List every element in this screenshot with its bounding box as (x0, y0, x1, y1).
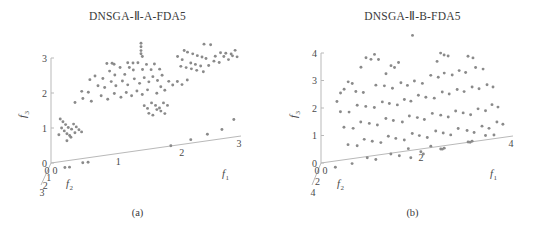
svg-text:f2: f2 (66, 177, 74, 192)
panel-a-plot: 321012300123f1f2f3 (0, 0, 275, 228)
panel-a-caption: (a) (0, 207, 275, 218)
svg-text:3: 3 (312, 75, 317, 86)
svg-text:f3: f3 (16, 110, 31, 118)
svg-text:3: 3 (42, 53, 47, 64)
svg-text:0: 0 (53, 165, 58, 176)
svg-text:f2: f2 (337, 177, 345, 192)
svg-text:0: 0 (312, 158, 317, 169)
svg-text:f1: f1 (490, 167, 498, 182)
panel-a: DNSGA-Ⅱ-A-FDA5 321012300123f1f2f3 (a) (0, 0, 275, 228)
svg-text:1: 1 (42, 123, 47, 134)
svg-text:f1: f1 (222, 167, 230, 182)
svg-text:3: 3 (237, 138, 242, 149)
panel-b-plot: 42024001234f1f2f3 (275, 0, 550, 228)
panel-b: DNSGA-Ⅱ-B-FDA5 42024001234f1f2f3 (b) (275, 0, 550, 228)
svg-text:3: 3 (40, 187, 45, 198)
svg-text:f3: f3 (287, 110, 302, 118)
svg-text:0: 0 (323, 165, 328, 176)
svg-text:2: 2 (312, 103, 317, 114)
svg-text:1: 1 (312, 130, 317, 141)
svg-text:4: 4 (509, 138, 514, 149)
svg-text:2: 2 (179, 147, 184, 158)
svg-text:0: 0 (42, 158, 47, 169)
svg-text:4: 4 (312, 48, 317, 59)
svg-text:2: 2 (315, 176, 320, 187)
svg-text:4: 4 (311, 187, 316, 198)
svg-text:1: 1 (116, 156, 121, 167)
svg-text:2: 2 (42, 88, 47, 99)
panel-b-caption: (b) (275, 207, 550, 218)
figure-root: DNSGA-Ⅱ-A-FDA5 321012300123f1f2f3 (a) DN… (0, 0, 550, 228)
